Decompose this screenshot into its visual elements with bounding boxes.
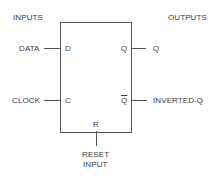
inverted-q-output-label: INVERTED-Q: [153, 96, 203, 105]
pin-q-label: Q: [121, 44, 127, 53]
pin-q-bar-label: Q: [121, 96, 127, 105]
q-output-line: [131, 48, 146, 49]
outputs-header: OUTPUTS: [168, 13, 207, 22]
data-input-line: [44, 48, 60, 49]
q-output-label: Q: [153, 44, 159, 53]
q-bar-output-line: [131, 100, 147, 101]
flip-flop-box: [60, 22, 132, 133]
pin-d-label: D: [65, 44, 71, 53]
clock-input-line: [44, 100, 60, 101]
reset-label-line1: RESET: [82, 150, 109, 159]
clock-input-label: CLOCK: [12, 96, 40, 105]
reset-label-line2: INPUT: [83, 160, 108, 169]
pin-r-label: R: [93, 120, 99, 129]
data-input-label: DATA: [19, 44, 40, 53]
reset-input-line: [96, 131, 97, 146]
inputs-header: INPUTS: [13, 13, 43, 22]
pin-c-label: C: [65, 96, 71, 105]
